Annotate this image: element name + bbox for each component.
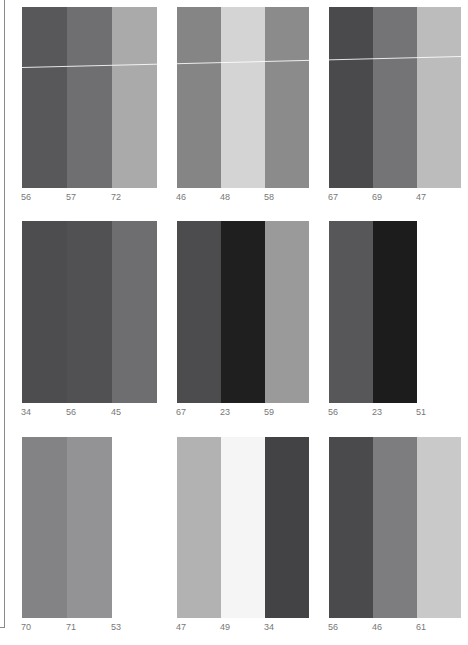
swatch-panel bbox=[177, 7, 309, 188]
swatch-value-label: 56 bbox=[21, 192, 66, 202]
color-stripe bbox=[22, 221, 67, 403]
swatch-value-label: 45 bbox=[111, 407, 156, 417]
color-stripe bbox=[221, 7, 265, 188]
color-stripe bbox=[373, 221, 417, 403]
swatch-value-label: 56 bbox=[66, 407, 111, 417]
color-stripe bbox=[67, 7, 112, 188]
swatch-value-label: 23 bbox=[372, 407, 416, 417]
swatch-value-label: 67 bbox=[328, 192, 372, 202]
color-stripe bbox=[177, 437, 221, 618]
color-stripe bbox=[67, 221, 112, 403]
color-stripe bbox=[112, 7, 157, 188]
swatch-panel bbox=[22, 437, 112, 618]
swatch-labels: 464858 bbox=[176, 192, 308, 202]
swatch-panel bbox=[22, 7, 157, 188]
swatch-value-label: 58 bbox=[264, 192, 308, 202]
swatch-value-label: 46 bbox=[372, 622, 416, 632]
color-stripe bbox=[329, 7, 373, 188]
color-stripe bbox=[221, 221, 265, 403]
swatch-value-label: 56 bbox=[328, 622, 372, 632]
color-stripe bbox=[417, 7, 461, 188]
swatch-panel bbox=[22, 221, 157, 403]
swatch-value-label: 51 bbox=[416, 407, 460, 417]
swatch-labels: 562351 bbox=[328, 407, 460, 417]
swatch-value-label: 48 bbox=[220, 192, 264, 202]
color-stripe bbox=[22, 7, 67, 188]
color-stripe bbox=[373, 7, 417, 188]
swatch-value-label: 70 bbox=[21, 622, 66, 632]
swatch-value-label: 72 bbox=[111, 192, 156, 202]
color-stripe bbox=[221, 437, 265, 618]
swatch-value-label: 56 bbox=[328, 407, 372, 417]
color-stripe bbox=[67, 437, 112, 618]
swatch-labels: 707153 bbox=[21, 622, 156, 632]
swatch-panel bbox=[329, 7, 461, 188]
color-stripe bbox=[177, 7, 221, 188]
swatch-value-label: 71 bbox=[66, 622, 111, 632]
swatch-value-label: 59 bbox=[264, 407, 308, 417]
left-margin-rule bbox=[4, 0, 5, 628]
swatch-value-label: 49 bbox=[220, 622, 264, 632]
swatch-value-label: 67 bbox=[176, 407, 220, 417]
swatch-value-label: 34 bbox=[264, 622, 308, 632]
swatch-value-label: 46 bbox=[176, 192, 220, 202]
color-stripe bbox=[22, 437, 67, 618]
color-stripe bbox=[329, 437, 373, 618]
color-stripe bbox=[265, 7, 309, 188]
swatch-labels: 345645 bbox=[21, 407, 156, 417]
swatch-value-label: 57 bbox=[66, 192, 111, 202]
color-stripe bbox=[417, 437, 461, 618]
swatch-labels: 672359 bbox=[176, 407, 308, 417]
color-stripe bbox=[177, 221, 221, 403]
color-stripe bbox=[265, 221, 309, 403]
swatch-value-label: 47 bbox=[176, 622, 220, 632]
swatch-panel bbox=[329, 437, 461, 618]
swatch-labels: 565772 bbox=[21, 192, 156, 202]
swatch-labels: 564661 bbox=[328, 622, 460, 632]
swatch-value-label: 61 bbox=[416, 622, 460, 632]
swatch-labels: 676947 bbox=[328, 192, 460, 202]
color-stripe bbox=[329, 221, 373, 403]
left-margin-tick bbox=[0, 627, 5, 628]
color-stripe bbox=[265, 437, 309, 618]
swatch-panel bbox=[177, 437, 309, 618]
swatch-labels: 474934 bbox=[176, 622, 308, 632]
color-stripe bbox=[112, 221, 157, 403]
swatch-value-label: 69 bbox=[372, 192, 416, 202]
swatch-value-label: 53 bbox=[111, 622, 156, 632]
swatch-panel bbox=[329, 221, 417, 403]
swatch-value-label: 34 bbox=[21, 407, 66, 417]
swatch-value-label: 23 bbox=[220, 407, 264, 417]
swatch-panel bbox=[177, 221, 309, 403]
swatch-value-label: 47 bbox=[416, 192, 460, 202]
color-stripe bbox=[373, 437, 417, 618]
